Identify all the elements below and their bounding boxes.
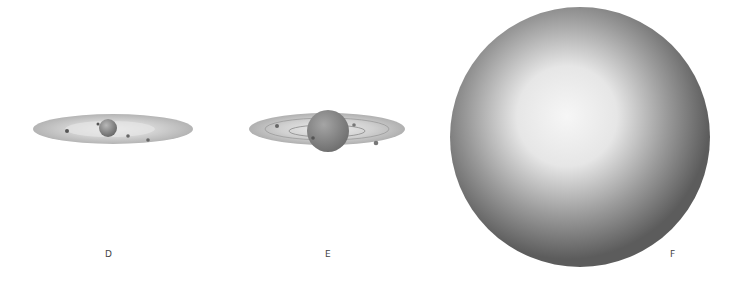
small-body-d3	[126, 134, 130, 138]
orbiting-body-e1	[275, 124, 279, 128]
large-sphere-f	[450, 7, 710, 267]
panel-label-e: E	[325, 249, 331, 259]
panel-e	[249, 110, 405, 152]
small-body-d1	[65, 129, 69, 133]
central-body-e	[307, 110, 349, 152]
small-body-d2	[97, 123, 100, 126]
orbiting-body-e4	[374, 141, 379, 146]
orbiting-body-e2	[311, 136, 315, 140]
central-body-d	[99, 119, 117, 137]
orbiting-body-e3	[352, 123, 356, 127]
diagram-canvas	[0, 0, 740, 282]
panel-d	[33, 114, 193, 144]
panel-label-f: F	[670, 249, 675, 259]
panel-label-d: D	[105, 249, 112, 259]
small-body-d4	[146, 138, 150, 142]
panel-f	[450, 7, 710, 267]
